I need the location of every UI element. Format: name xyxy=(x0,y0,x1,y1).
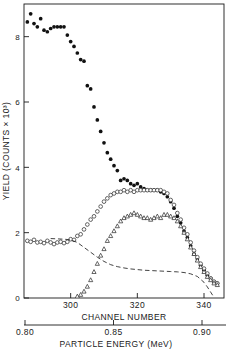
point-open-circles xyxy=(85,223,89,227)
point-filled-circles xyxy=(65,33,69,37)
y-tick-label-8: 8 xyxy=(15,33,20,42)
x-tick-label-340: 340 xyxy=(196,300,211,310)
x-tick-label-300: 300 xyxy=(63,300,78,310)
y-tick-label-4: 4 xyxy=(15,164,20,173)
point-filled-circles xyxy=(115,169,119,173)
data-layer xyxy=(25,12,219,298)
point-filled-circles xyxy=(99,130,103,134)
point-filled-circles xyxy=(62,25,66,29)
y-tick-label-2: 2 xyxy=(15,229,20,238)
point-open-circles xyxy=(165,192,169,196)
point-open-circles xyxy=(175,211,179,215)
energy-tick-label-0.80: 0.80 xyxy=(16,327,34,337)
point-open-circles xyxy=(32,238,36,242)
point-filled-circles xyxy=(52,25,56,29)
point-open-triangles xyxy=(115,224,119,228)
point-open-circles xyxy=(99,205,103,209)
point-filled-circles xyxy=(102,141,106,145)
point-filled-circles xyxy=(75,51,79,55)
point-open-triangles xyxy=(179,224,183,228)
point-open-circles xyxy=(92,214,96,218)
y-tick-label-0: 0 xyxy=(15,294,20,303)
yield-spectrum-chart: 02468300320340CHANNEL NUMBERYIELD (COUNT… xyxy=(0,0,233,350)
point-filled-circles xyxy=(92,105,96,109)
point-open-circles xyxy=(95,210,99,214)
point-filled-circles xyxy=(109,157,113,161)
energy-tick-label-0.85: 0.85 xyxy=(104,327,122,337)
point-open-triangles xyxy=(165,212,169,216)
point-filled-circles xyxy=(59,25,63,29)
point-open-triangles xyxy=(135,212,139,216)
point-open-triangles xyxy=(89,278,93,282)
energy-tick-label-0.90: 0.90 xyxy=(193,327,211,337)
point-filled-circles xyxy=(85,84,89,88)
point-filled-circles xyxy=(95,118,99,122)
point-filled-circles xyxy=(105,151,109,155)
point-filled-circles xyxy=(112,164,116,168)
point-open-triangles xyxy=(139,214,143,218)
point-open-circles xyxy=(82,228,86,232)
point-open-triangles xyxy=(145,216,149,220)
point-open-triangles xyxy=(132,211,136,215)
point-open-triangles xyxy=(105,239,109,243)
point-open-circles xyxy=(179,218,183,222)
point-open-triangles xyxy=(92,270,96,274)
chart-figure: 02468300320340CHANNEL NUMBERYIELD (COUNT… xyxy=(0,0,233,350)
point-open-triangles xyxy=(85,284,89,288)
point-open-triangles xyxy=(155,214,159,218)
point-open-triangles xyxy=(169,214,173,218)
point-open-triangles xyxy=(109,234,113,238)
x-axis-label: CHANNEL NUMBER xyxy=(81,312,166,322)
point-filled-circles xyxy=(72,45,76,49)
point-filled-circles xyxy=(39,17,43,21)
point-open-circles xyxy=(65,240,69,244)
point-filled-circles xyxy=(29,12,33,16)
point-filled-circles xyxy=(79,58,83,62)
point-filled-circles xyxy=(49,27,53,31)
point-filled-circles xyxy=(55,25,59,29)
energy-axis-label: PARTICLE ENERGY (MeV) xyxy=(60,339,173,349)
point-open-triangles xyxy=(99,253,103,257)
point-filled-circles xyxy=(42,28,46,32)
point-filled-circles xyxy=(122,177,126,181)
y-axis-label: YIELD (COUNTS × 10³) xyxy=(1,102,11,200)
point-open-triangles xyxy=(102,247,106,251)
point-open-circles xyxy=(42,241,46,245)
point-filled-circles xyxy=(82,59,86,63)
point-open-circles xyxy=(172,203,176,207)
point-filled-circles xyxy=(45,30,49,34)
point-filled-circles xyxy=(69,40,73,44)
x-tick-label-320: 320 xyxy=(130,300,145,310)
point-filled-circles xyxy=(35,25,39,29)
point-open-triangles xyxy=(112,229,116,233)
point-open-triangles xyxy=(82,289,86,293)
point-filled-circles xyxy=(125,179,129,183)
point-open-circles xyxy=(105,197,109,201)
y-tick-label-6: 6 xyxy=(15,98,20,107)
point-filled-circles xyxy=(119,179,123,183)
point-filled-circles xyxy=(32,22,36,26)
point-filled-circles xyxy=(129,182,133,186)
point-filled-circles xyxy=(89,87,93,91)
point-open-triangles xyxy=(95,261,99,265)
point-open-triangles xyxy=(172,216,176,220)
point-open-circles xyxy=(102,200,106,204)
point-open-circles xyxy=(79,232,83,236)
point-filled-circles xyxy=(25,20,29,24)
point-open-circles xyxy=(169,198,173,202)
point-filled-circles xyxy=(132,183,136,187)
point-open-circles xyxy=(89,218,93,222)
point-filled-circles xyxy=(135,182,139,186)
